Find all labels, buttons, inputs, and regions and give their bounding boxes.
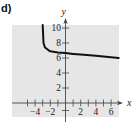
- x-tick-label: 4: [94, 107, 99, 117]
- y-axis-label: y: [61, 6, 67, 17]
- x-tick-label: −4: [30, 107, 40, 117]
- y-tick-label: 10: [52, 23, 62, 33]
- y-tick-label: 8: [56, 38, 61, 48]
- x-tick-label: 2: [78, 107, 83, 117]
- x-tick-label: 6: [109, 107, 114, 117]
- x-tick-label: −2: [45, 107, 55, 117]
- x-axis-label: x: [126, 97, 132, 108]
- y-tick-label: 4: [56, 68, 61, 78]
- y-tick-label: 6: [56, 53, 61, 63]
- y-tick-label: 2: [56, 83, 61, 93]
- chart: xy−4−2246246810: [0, 0, 134, 128]
